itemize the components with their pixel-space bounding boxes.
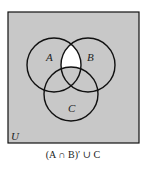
- label-universe: U: [11, 130, 20, 142]
- label-a: A: [45, 51, 53, 63]
- label-c: C: [68, 102, 76, 114]
- caption: (A ∩ B)′ ∪ C: [46, 149, 101, 161]
- label-b: B: [87, 51, 94, 63]
- venn-diagram: A B C U (A ∩ B)′ ∪ C: [0, 0, 144, 169]
